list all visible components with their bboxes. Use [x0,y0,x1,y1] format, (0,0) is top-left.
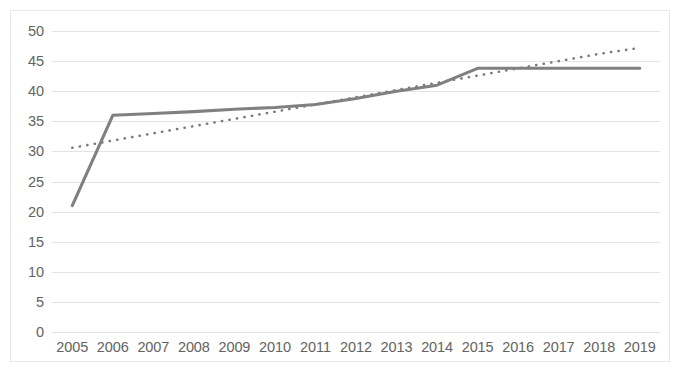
x-axis-tick-label: 2011 [300,340,331,355]
y-axis-tick-label: 10 [10,265,44,280]
x-axis-tick-label: 2014 [421,340,453,355]
x-axis-tick-label: 2015 [462,340,494,355]
x-axis-tick-label: 2008 [178,340,210,355]
y-axis-tick-label: 25 [10,174,44,189]
data-series [72,68,639,205]
y-axis-tick-label: 5 [10,295,44,310]
x-axis-tick-label: 2009 [218,340,250,355]
y-axis-tick-label: 35 [10,114,44,129]
y-axis-tick-label: 20 [10,204,44,219]
y-axis-tick-label: 15 [10,234,44,249]
y-axis-tick-label: 50 [10,24,44,39]
line-chart: 05101520253035404550 2005200620072008200… [0,0,681,375]
plot-area [52,31,660,332]
x-axis-tick-label: 2013 [381,340,413,355]
x-axis-tick-label: 2010 [259,340,291,355]
x-axis-tick-label: 2017 [543,340,575,355]
y-axis-tick-label: 30 [10,144,44,159]
x-axis-tick-label: 2006 [97,340,129,355]
x-axis-tick-label: 2018 [583,340,615,355]
x-axis-tick-label: 2005 [56,340,88,355]
x-axis-tick-label: 2019 [624,340,656,355]
x-axis-tick-label: 2016 [502,340,534,355]
y-axis-tick-label: 40 [10,84,44,99]
x-axis-labels: 2005200620072008200920102011201220132014… [52,340,660,362]
x-axis-tick-label: 2007 [137,340,169,355]
y-axis-tick-label: 0 [10,325,44,340]
y-axis-labels: 05101520253035404550 [10,31,44,332]
x-axis-tick-label: 2012 [340,340,372,355]
series-layer [52,31,660,332]
gridline [52,332,660,333]
y-axis-tick-label: 45 [10,54,44,69]
